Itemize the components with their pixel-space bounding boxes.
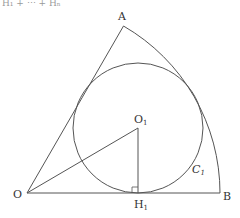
- segment-OO1: [27, 128, 138, 193]
- label-O1: O1: [134, 113, 148, 127]
- sector-incircle-diagram: H₁ + ⋯ + Hₙ A O B O1 H1 C1: [0, 0, 240, 218]
- right-angle-mark: [132, 187, 138, 193]
- label-H1: H1: [134, 198, 148, 212]
- label-A: A: [117, 10, 127, 23]
- label-C1: C1: [192, 163, 205, 177]
- label-B: B: [223, 190, 231, 203]
- label-O: O: [13, 188, 22, 201]
- header-fragment: H₁ + ⋯ + Hₙ: [2, 0, 61, 8]
